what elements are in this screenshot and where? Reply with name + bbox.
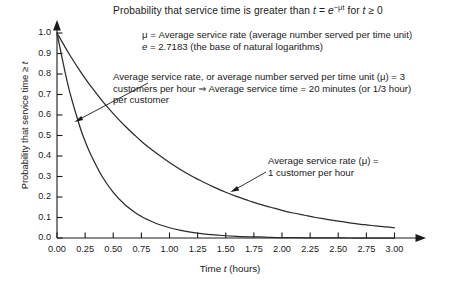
y-axis-tick-label: 0.8 xyxy=(25,68,51,78)
y-axis-title-var: t xyxy=(19,62,30,65)
mu-definition-text: = Average service rate (average number s… xyxy=(148,29,413,40)
y-axis-tick-label: 1.0 xyxy=(25,27,51,37)
x-axis-tick-label: 3.00 xyxy=(378,244,412,254)
curve-mu-3 xyxy=(57,33,395,238)
annotation-mu-definition: μ = Average service rate (average number… xyxy=(142,29,412,52)
x-axis-title-post: (hours) xyxy=(227,263,261,274)
x-axis-title: Time t (hours) xyxy=(150,263,310,274)
y-axis-tick-label: 0.6 xyxy=(25,109,51,119)
annotation-mu-3-callout: Average service rate, or average number … xyxy=(113,71,411,106)
y-axis-ticks xyxy=(57,33,63,238)
annotation-mu-3-line-1: Average service rate, or average number … xyxy=(113,71,411,83)
x-axis-title-pre: Time xyxy=(200,263,224,274)
chart-title-equals: = xyxy=(316,5,328,16)
y-axis-tick-label: 0.7 xyxy=(25,89,51,99)
chart-title-tail-pre: for xyxy=(345,5,363,16)
annotation-mu-1-line-2: 1 customer per hour xyxy=(268,167,379,179)
annotation-mu-3-line-2: customers per hour ⇒ Average service tim… xyxy=(113,83,411,95)
y-axis-tick-label: 0.2 xyxy=(25,191,51,201)
chart-title: Probability that service time is greater… xyxy=(113,5,383,16)
leader-line-mu-1 xyxy=(236,172,266,189)
axes-group xyxy=(53,20,426,242)
y-axis-tick-label: 0.0 xyxy=(25,232,51,242)
chart-title-tail-post: ≥ 0 xyxy=(366,5,383,16)
chart-title-lead: Probability that service time is greater… xyxy=(113,5,313,16)
e-definition-text: = 2.7183 (the base of natural logarithms… xyxy=(147,41,323,52)
exponential-service-time-figure: Probability that service time is greater… xyxy=(0,0,461,281)
y-axis-tick-label: 0.9 xyxy=(25,48,51,58)
y-axis-tick-label: 0.4 xyxy=(25,150,51,160)
annotation-mu-1-line-1: Average service rate (μ) = xyxy=(268,155,379,167)
annotation-mu-definition-line-1: μ = Average service rate (average number… xyxy=(142,29,412,41)
y-axis-arrowhead xyxy=(53,20,61,31)
curve-mu-1 xyxy=(57,33,395,228)
series-group xyxy=(57,33,395,238)
y-axis-tick-label: 0.5 xyxy=(25,130,51,140)
leader-arrowhead-mu-1 xyxy=(231,186,240,192)
annotation-mu-1-callout: Average service rate (μ) =1 customer per… xyxy=(268,155,379,178)
annotation-mu-3-line-3: per customer xyxy=(113,94,411,106)
y-axis-tick-label: 0.3 xyxy=(25,171,51,181)
chart-title-exponent: −μt xyxy=(334,3,345,12)
x-axis-arrowhead xyxy=(416,234,427,242)
y-axis-tick-label: 0.1 xyxy=(25,212,51,222)
annotation-mu-definition-line-2: e = 2.7183 (the base of natural logarith… xyxy=(142,41,412,53)
